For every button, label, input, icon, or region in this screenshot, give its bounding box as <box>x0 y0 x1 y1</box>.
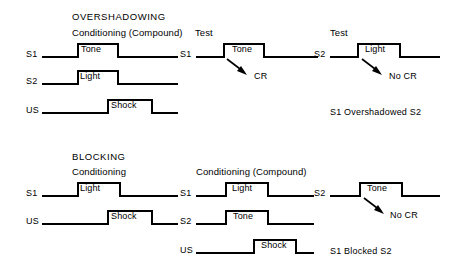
annotation-no-cr-overshadowing-test-s2: No CR <box>389 72 417 81</box>
waveform-s1-light-blocking-compound <box>196 179 314 201</box>
waveform-s2-light-overshadowing-conditioning <box>42 67 178 89</box>
arrow-to-cr-overshadowing <box>225 57 253 77</box>
row-label-s1-overshadowing-conditioning: S1 <box>26 50 37 59</box>
pulse-label-tone-overshadowing-conditioning: Tone <box>81 45 101 54</box>
arrow-to-no-cr-overshadowing <box>360 57 388 77</box>
panel-heading-overshadowing-conditioning: Conditioning (Compound) <box>72 28 183 38</box>
row-label-us-blocking-conditioning: US <box>26 217 39 226</box>
panel-heading-blocking-conditioning: Conditioning <box>72 167 126 177</box>
pulse-label-light-overshadowing-conditioning: Light <box>80 72 100 81</box>
waveform-s2-tone-blocking-compound <box>196 207 314 229</box>
panel-heading-overshadowing-test-s1: Test <box>195 28 213 38</box>
figure-canvas: OVERSHADOWING Conditioning (Compound) S1… <box>0 0 451 272</box>
pulse-label-tone-blocking-test: Tone <box>367 184 387 193</box>
pulse-label-shock-overshadowing-conditioning: Shock <box>111 101 137 110</box>
waveform-us-shock-blocking-compound <box>196 236 314 258</box>
waveform-s1-light-blocking-conditioning <box>42 179 178 201</box>
row-label-s1-overshadowing-test: S1 <box>180 50 191 59</box>
row-label-s2-overshadowing-test: S2 <box>314 50 325 59</box>
annotation-no-cr-blocking-test-s2: No CR <box>390 211 418 220</box>
result-blocking: S1 Blocked S2 <box>330 247 392 256</box>
pulse-label-tone-overshadowing-test: Tone <box>232 45 252 54</box>
row-label-s2-overshadowing-conditioning: S2 <box>26 77 37 86</box>
row-label-s2-blocking-test: S2 <box>314 189 325 198</box>
waveform-us-shock-blocking-conditioning <box>42 207 178 229</box>
pulse-label-tone-blocking-compound: Tone <box>233 212 253 221</box>
row-label-s2-blocking-compound: S2 <box>180 217 191 226</box>
row-label-us-blocking-compound: US <box>180 246 193 255</box>
panel-heading-overshadowing-test-s2: Test <box>330 28 348 38</box>
waveform-s1-tone-overshadowing-test <box>196 40 318 62</box>
pulse-label-shock-blocking-conditioning: Shock <box>111 212 137 221</box>
pulse-label-light-blocking-conditioning: Light <box>80 184 100 193</box>
pulse-label-light-blocking-compound: Light <box>232 184 252 193</box>
section-title-overshadowing: OVERSHADOWING <box>72 12 166 22</box>
row-label-s1-blocking-compound: S1 <box>180 189 191 198</box>
annotation-cr-overshadowing-test-s1: CR <box>254 72 267 81</box>
row-label-s1-blocking-conditioning: S1 <box>26 189 37 198</box>
result-overshadowing: S1 Overshadowed S2 <box>330 108 421 117</box>
waveform-s1-tone-overshadowing-conditioning <box>42 40 178 62</box>
row-label-us-overshadowing-conditioning: US <box>26 106 39 115</box>
arrow-to-no-cr-blocking <box>362 196 390 216</box>
section-title-blocking: BLOCKING <box>72 152 126 162</box>
pulse-label-shock-blocking-compound: Shock <box>261 241 287 250</box>
waveform-us-shock-overshadowing-conditioning <box>42 96 178 118</box>
panel-heading-blocking-compound: Conditioning (Compound) <box>196 167 307 177</box>
pulse-label-light-overshadowing-test: Light <box>365 45 385 54</box>
